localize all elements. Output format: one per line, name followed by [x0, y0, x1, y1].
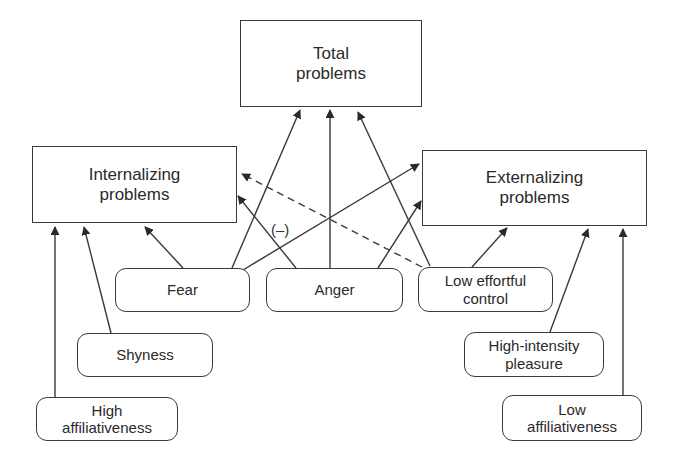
node-low-effortful-control: Low effortfulcontrol — [418, 267, 553, 312]
edge-lec-externalizing — [472, 228, 507, 267]
node-label: control — [445, 290, 526, 307]
edge-fear-total — [232, 110, 300, 268]
node-label: Low — [527, 401, 617, 418]
node-label: Total — [296, 44, 366, 64]
node-label: affiliativeness — [527, 418, 617, 435]
node-label: Externalizing — [486, 168, 583, 188]
node-label: problems — [486, 188, 583, 208]
node-internalizing-problems: Internalizingproblems — [32, 146, 237, 223]
node-label: problems — [89, 185, 181, 205]
node-label: Anger — [314, 281, 354, 298]
node-total-problems: Totalproblems — [240, 20, 422, 107]
node-label: affiliativeness — [62, 419, 152, 436]
edge-fear-internalizing — [145, 227, 183, 268]
node-label: pleasure — [489, 355, 580, 372]
node-label: High — [62, 402, 152, 419]
node-externalizing-problems: Externalizingproblems — [422, 150, 647, 226]
node-label: Fear — [167, 281, 198, 298]
node-label: High-intensity — [489, 337, 580, 354]
node-label: Low effortful — [445, 272, 526, 289]
node-label: Internalizing — [89, 165, 181, 185]
node-label: problems — [296, 64, 366, 84]
node-high-affiliativeness: Highaffiliativeness — [36, 397, 178, 441]
edge-lec-internalizing-dashed — [242, 174, 422, 267]
node-fear: Fear — [115, 268, 250, 312]
node-shyness: Shyness — [77, 333, 213, 377]
negative-path-label: (–) — [271, 221, 289, 238]
node-high-intensity-pleasure: High-intensitypleasure — [464, 332, 604, 377]
node-label: Shyness — [116, 346, 174, 363]
node-low-affiliativeness: Lowaffiliativeness — [502, 395, 642, 441]
edge-hip-externalizing — [550, 229, 588, 332]
edge-shyness-internalizing — [84, 227, 111, 333]
node-anger: Anger — [266, 268, 403, 312]
